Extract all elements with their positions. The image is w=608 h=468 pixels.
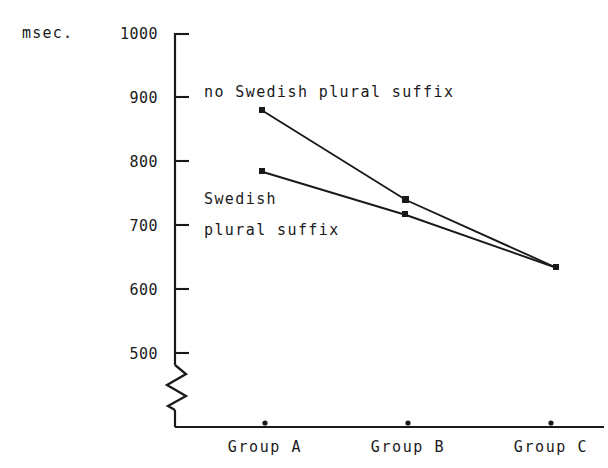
series-line-swedish-plural-suffix: [259, 168, 559, 270]
y-axis-break-icon: [167, 365, 186, 410]
x-axis-tick-dot-group-b: [405, 420, 410, 425]
x-axis-tick-dot-group-a: [262, 420, 267, 425]
series-line-no-swedish-plural-suffix: [259, 107, 559, 270]
data-point-marker: [259, 107, 265, 113]
plot-area: [0, 0, 608, 468]
x-axis: [175, 420, 604, 427]
chart-canvas: msec. 1000 900 800 700 600 500 Group A G…: [0, 0, 608, 468]
y-axis-ticks: [175, 97, 189, 353]
data-point-marker: [553, 264, 559, 270]
data-point-marker: [402, 211, 408, 217]
data-point-marker: [259, 168, 265, 174]
data-point-marker: [402, 196, 409, 203]
x-axis-tick-dot-group-c: [548, 420, 553, 425]
